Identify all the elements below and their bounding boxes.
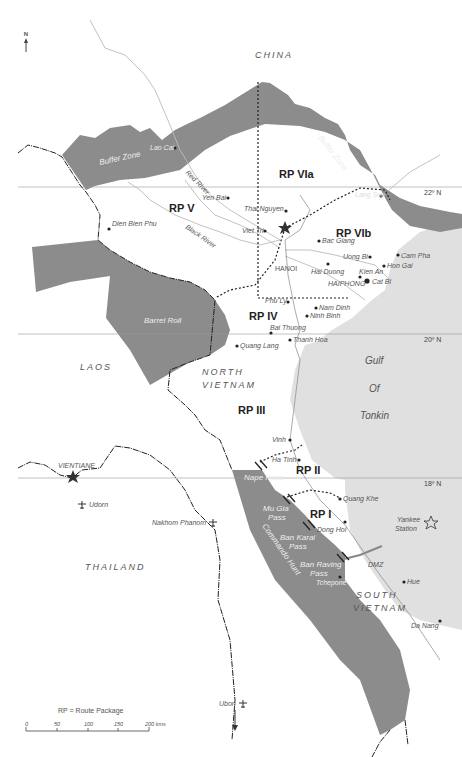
city-viet-tri: Viet Tri <box>242 227 264 234</box>
ban-raving-pass-label-2: Pass <box>310 569 328 578</box>
yankee-label-1: Yankee <box>397 516 420 523</box>
city-udorn: Udorn <box>89 501 108 508</box>
scale-tick-0: 0 <box>25 721 29 727</box>
black-river-label: Black River <box>184 223 218 249</box>
city-quang-lang: Quang Lang <box>240 342 279 350</box>
yankee-label-2: Station <box>395 525 417 532</box>
lat-18-label: 18º N <box>424 480 441 487</box>
country-north-vietnam-2: VIETNAM <box>202 380 256 390</box>
scale-tick-100: 100 <box>84 721 94 727</box>
barrel-roll-label: Barrel Roll <box>144 316 182 325</box>
city-bac-giang: Bac Giang <box>322 237 355 245</box>
scale-bar <box>26 727 149 731</box>
city-dong-hoi: Dong Hoi <box>317 526 347 534</box>
city-uong-bi: Uong Bi <box>343 253 368 261</box>
city-dien-bien-phu: Dien Bien Phu <box>112 220 157 227</box>
country-north-vietnam-1: NORTH <box>202 367 244 377</box>
country-thailand: THAILAND <box>85 562 146 572</box>
rp-4-label: RP IV <box>249 310 278 322</box>
country-south-vietnam-1: SOUTH <box>356 590 398 600</box>
svg-text:N: N <box>24 31 28 37</box>
city-ha-tinh: Ha Tinh <box>272 456 297 463</box>
scale-tick-150: 150 <box>114 721 124 727</box>
city-thanh-hoa: Thanh Hoa <box>293 336 328 343</box>
rp-5-label: RP V <box>169 202 195 214</box>
dmz-label: DMZ <box>368 561 384 568</box>
ban-karai-pass-label-1: Ban Karai <box>280 533 315 542</box>
legend-route-package-note: RP = Route Package <box>58 707 124 715</box>
rp-2-label: RP II <box>296 464 320 476</box>
city-da-nang: Da Nang <box>411 622 439 630</box>
vientiane-star-icon <box>66 470 80 483</box>
city-lao-cai: Lao Cai <box>150 144 175 151</box>
rp-6a-label: RP VIa <box>279 168 315 180</box>
ban-karai-pass-label-2: Pass <box>289 542 307 551</box>
gulf-label-1: Gulf <box>365 355 385 366</box>
city-bai-thuong: Bai Thuong <box>270 324 306 332</box>
city-hon-gai: Hon Gai <box>387 262 413 269</box>
city-thai-nguyen: Thai Nguyen <box>244 205 284 213</box>
city-phu-ly: Phu Ly <box>265 297 287 305</box>
city-kien-an: Kien An <box>359 268 383 275</box>
nape-pass-label: Nape Pass <box>244 473 283 482</box>
city-ubon: Ubon <box>219 700 236 707</box>
country-china: CHINA <box>255 50 293 60</box>
city-haiphong: HAIPHONG <box>328 280 366 287</box>
city-cat-bi: Cat Bi <box>372 278 392 285</box>
city-nam-dinh: Nam Dinh <box>319 304 350 311</box>
ban-raving-pass-label-1: Ban Raving <box>300 560 342 569</box>
mu-gia-pass-label-1: Mu Gia <box>263 504 289 513</box>
city-quang-khe: Quang Khe <box>343 495 379 503</box>
gulf-label-3: Tonkin <box>360 410 390 421</box>
city-ninh-binh: Ninh Binh <box>310 312 340 319</box>
city-hai-duong: Hai Duong <box>311 268 344 276</box>
north-arrow-icon: N <box>24 31 28 52</box>
rp-3-label: RP III <box>238 404 265 416</box>
lat-20-label: 20º N <box>424 336 441 343</box>
airbase-ubon-icon <box>239 700 247 708</box>
city-vinh: Vinh <box>272 436 286 443</box>
gulf-label-2: Of <box>369 383 381 394</box>
scale-tick-50: 50 <box>54 721 61 727</box>
rp-1-label: RP I <box>310 508 331 520</box>
city-yen-bai: Yen Bai <box>202 194 227 201</box>
city-nakhom-phanom: Nakhom Phanom <box>152 519 206 526</box>
country-laos: LAOS <box>80 362 112 372</box>
airbase-udorn-icon <box>78 501 86 509</box>
lat-22-label: 22º N <box>424 189 441 196</box>
scale-tick-200: 200 kms <box>144 721 166 727</box>
city-tchepone: Tchepone <box>316 579 347 587</box>
city-hanoi: HANOI <box>275 265 297 272</box>
hanoi-star-icon <box>278 221 292 234</box>
city-cam-pha: Cam Pha <box>401 252 430 259</box>
city-vientiane: VIENTIANE <box>58 462 95 469</box>
city-lang-son: Lang Son <box>355 191 385 199</box>
barrel-roll-area <box>32 240 230 385</box>
red-river-label: Red River <box>184 169 211 196</box>
city-hue: Hue <box>407 578 420 585</box>
country-south-vietnam-2: VIETNAM <box>353 603 407 613</box>
mu-gia-pass-label-2: Pass <box>268 513 286 522</box>
map-canvas: N CHINA LAOS NORTH VIETNAM THAILAND SOUT… <box>0 0 462 757</box>
